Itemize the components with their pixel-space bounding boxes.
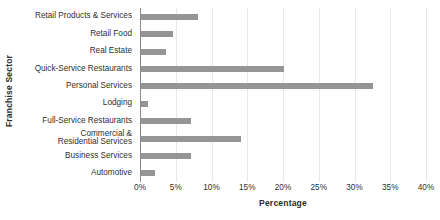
category-label: Lodging bbox=[18, 99, 132, 108]
y-axis-title-text: Franchise Sector bbox=[4, 55, 14, 127]
plot-area bbox=[140, 8, 426, 182]
category-label: Commercial & Residential Services bbox=[18, 130, 132, 147]
category-label: Retail Food bbox=[18, 30, 132, 39]
x-tick-label: 25% bbox=[311, 183, 327, 192]
x-tick-label: 20% bbox=[275, 183, 291, 192]
x-tick-label: 35% bbox=[382, 183, 398, 192]
bar bbox=[141, 136, 241, 142]
x-tick-label: 40% bbox=[418, 183, 434, 192]
x-tick-label: 15% bbox=[239, 183, 255, 192]
bar bbox=[141, 170, 155, 176]
bar bbox=[141, 101, 148, 107]
gridline bbox=[426, 8, 427, 182]
gridline bbox=[212, 8, 213, 182]
x-tick-label: 0% bbox=[134, 183, 146, 192]
x-tick-mark bbox=[140, 179, 141, 182]
bar bbox=[141, 31, 173, 37]
category-label: Quick-Service Restaurants bbox=[18, 65, 132, 74]
bar bbox=[141, 49, 166, 55]
category-label: Business Services bbox=[18, 152, 132, 161]
gridline bbox=[319, 8, 320, 182]
category-label: Full-Service Restaurants bbox=[18, 117, 132, 126]
y-axis-title: Franchise Sector bbox=[0, 0, 18, 182]
gridline bbox=[390, 8, 391, 182]
bar bbox=[141, 14, 198, 20]
bar bbox=[141, 66, 284, 72]
x-axis-tick-labels: 0%5%10%15%20%25%30%35%40% bbox=[140, 183, 440, 197]
bar bbox=[141, 153, 191, 159]
gridline bbox=[247, 8, 248, 182]
x-tick-label: 30% bbox=[346, 183, 362, 192]
bar-chart: Franchise Sector Retail Products & Servi… bbox=[0, 0, 440, 220]
category-label: Personal Services bbox=[18, 82, 132, 91]
gridline bbox=[283, 8, 284, 182]
x-tick-label: 10% bbox=[203, 183, 219, 192]
bar bbox=[141, 83, 373, 89]
bar bbox=[141, 118, 191, 124]
gridline bbox=[355, 8, 356, 182]
category-label: Retail Products & Services bbox=[18, 12, 132, 21]
category-label: Automotive bbox=[18, 169, 132, 178]
x-tick-label: 5% bbox=[170, 183, 182, 192]
x-axis-title: Percentage bbox=[140, 198, 426, 208]
y-axis-category-labels: Retail Products & ServicesRetail FoodRea… bbox=[18, 8, 136, 182]
category-label: Real Estate bbox=[18, 47, 132, 56]
